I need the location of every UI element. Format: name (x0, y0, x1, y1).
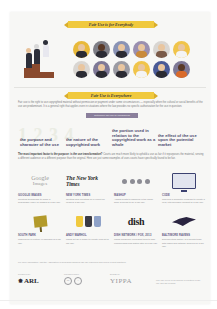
examples-row: SOUTH PARK Making fun of culture in paro… (18, 210, 206, 248)
factor-effect: the effect of the use upon the potential… (158, 124, 204, 148)
example-ravens: BALTIMORE RAVENS Documenting history of … (162, 210, 206, 248)
example-south-park: SOUTH PARK Making fun of culture in paro… (18, 210, 62, 248)
example-title: GOOGLE IMAGES (18, 194, 62, 197)
example-title: MASHUP (114, 194, 158, 197)
transformative-paragraph: The most important factor is the purpose… (18, 153, 204, 160)
factor-purpose: the purpose and character of the use (20, 124, 66, 148)
example-title: CODE (162, 194, 206, 197)
page-edge (0, 300, 217, 301)
avatar (93, 61, 110, 78)
footer-arl: Produced by ARL (18, 273, 64, 285)
podium-step (40, 72, 54, 78)
example-desc: Creating thumbnails to make a searchable… (18, 198, 62, 204)
example-google-images: GoogleImages GOOGLE IMAGES Creating thum… (18, 170, 62, 204)
person-figure (34, 49, 40, 64)
nyt-logo: The New York Times (66, 170, 110, 192)
transformative-lead: The most important factor is the purpose… (18, 153, 102, 156)
avatar (133, 61, 150, 78)
banner-fair-use-everywhere: Fair Use is Everywhere (68, 92, 154, 99)
example-desc: Quoting and reporting on a report for ne… (66, 198, 110, 204)
yippa-logo: YIPPA (110, 277, 156, 285)
avatar (173, 61, 190, 78)
podium-illustration (24, 40, 58, 78)
example-code: CODE Copying a computer program to creat… (162, 170, 206, 204)
example-desc: Using consumer recording tools to skip c… (114, 238, 158, 244)
monitor-icon (162, 170, 206, 192)
signpost-icon (18, 210, 62, 232)
avatar-row (73, 41, 201, 58)
podium-step (32, 64, 40, 78)
person-figure (26, 53, 32, 68)
example-title: NEW YORK TIMES (66, 194, 110, 197)
section-divider (14, 87, 206, 88)
factor-nature: the nature of the copyrighted work (66, 124, 112, 148)
footer-design: Design by YIPPA (110, 273, 156, 285)
factors-tab-label: Determine fair use by considering (86, 113, 138, 118)
example-desc: Making fun of culture in parodies is a f… (18, 238, 62, 244)
example-dish: dish DISH NETWORK / FOX, 2013 Using cons… (114, 210, 158, 248)
footer: Produced by ARL Licensed under cc i Desi… (18, 273, 204, 285)
avatar (93, 41, 110, 58)
example-desc: Adding beats to samples in the same work… (114, 198, 158, 204)
dots-icon (114, 170, 158, 192)
person-figure (43, 45, 49, 57)
banner-fair-use-for-everybody: Fair Use is for Everybody (68, 21, 154, 28)
example-title: SOUTH PARK (18, 234, 62, 237)
avatar (153, 61, 170, 78)
avatar (113, 61, 130, 78)
example-title: ANDY WARHOL (66, 234, 110, 237)
podium-step (24, 68, 32, 78)
dish-logo: dish (114, 210, 158, 232)
raven-icon (162, 210, 206, 232)
example-nyt: The New York Times NEW YORK TIMES Quotin… (66, 170, 110, 204)
examples-grid: GoogleImages GOOGLE IMAGES Creating thum… (18, 170, 206, 248)
cups-icon (66, 210, 110, 232)
example-title: DISH NETWORK / FOX, 2013 (114, 234, 158, 237)
example-title: BALTIMORE RAVENS (162, 234, 206, 237)
google-images-logo: GoogleImages (18, 170, 62, 192)
avatar (73, 41, 90, 58)
avatar (73, 61, 90, 78)
attribution-icon: i (74, 277, 82, 285)
avatar-row (73, 61, 201, 78)
example-desc: Documenting history of a sports team wit… (162, 238, 206, 248)
factor-portion: the portion used in relation to the copy… (112, 124, 158, 148)
example-mashup: MASHUP Adding beats to samples in the sa… (114, 170, 158, 204)
avatar-grid (73, 41, 201, 81)
four-factors: the purpose and character of the use the… (20, 124, 206, 148)
cc-license-icons: cc i (64, 277, 110, 285)
avatar (173, 41, 190, 58)
cc-icon: cc (64, 277, 72, 285)
example-warhol: ANDY WARHOL Using art as a model to crea… (66, 210, 110, 248)
footer-credit: Fair Use Week is an annual celebration o… (156, 279, 202, 285)
arl-logo: ARL (18, 277, 64, 285)
example-desc: Using art as a model to create new art i… (66, 238, 110, 244)
example-desc: Copying a computer program to create a n… (162, 198, 206, 204)
intro-paragraph: Fair use is the right to use copyrighted… (18, 101, 204, 108)
avatar (153, 41, 170, 58)
examples-row: GoogleImages GOOGLE IMAGES Creating thum… (18, 170, 206, 204)
avatar (113, 41, 130, 58)
footer-license: Licensed under cc i (64, 273, 110, 285)
avatar (133, 41, 150, 58)
footnote: For more information, visit the Associat… (18, 261, 204, 264)
